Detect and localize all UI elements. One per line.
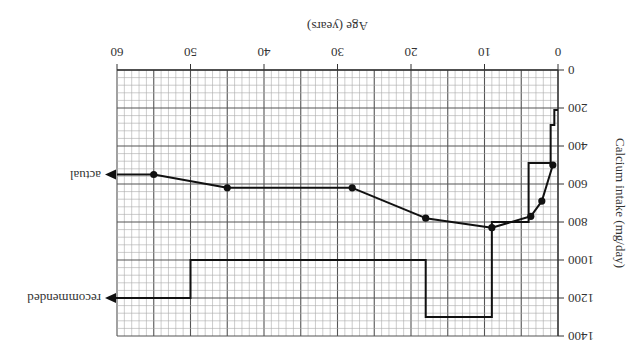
data-point-marker bbox=[538, 198, 545, 205]
recommended-line bbox=[105, 110, 558, 317]
data-point-marker bbox=[549, 161, 556, 168]
actual-line bbox=[105, 161, 556, 231]
x-tick-label: 20 bbox=[405, 45, 418, 60]
data-point-marker bbox=[150, 171, 157, 178]
legend-recommended: recommended bbox=[27, 291, 101, 306]
x-tick-label: 40 bbox=[258, 45, 271, 60]
y-tick-label: 400 bbox=[568, 139, 588, 154]
x-tick-label: 0 bbox=[555, 45, 562, 60]
y-tick-label: 800 bbox=[568, 215, 588, 230]
x-tick-label: 10 bbox=[478, 45, 491, 60]
chart-svg: 01020304050600200400600800100012001400 A… bbox=[0, 0, 644, 354]
x-axis-label: Age (years) bbox=[307, 19, 368, 34]
arrow-right-icon bbox=[105, 170, 116, 180]
y-tick-label: 1200 bbox=[568, 291, 594, 306]
x-tick-label: 30 bbox=[331, 45, 344, 60]
y-tick-label: 0 bbox=[568, 63, 575, 78]
data-point-marker bbox=[488, 224, 495, 231]
data-point-marker bbox=[422, 215, 429, 222]
y-axis-label: Calcium intake (mg/day) bbox=[613, 138, 628, 268]
legend-actual: actual bbox=[70, 168, 101, 183]
x-tick-label: 50 bbox=[184, 45, 197, 60]
data-point-marker bbox=[224, 184, 231, 191]
data-point-marker bbox=[349, 184, 356, 191]
y-tick-label: 600 bbox=[568, 177, 588, 192]
y-tick-label: 1000 bbox=[568, 253, 594, 268]
x-tick-label: 60 bbox=[111, 45, 124, 60]
calcium-chart: 01020304050600200400600800100012001400 A… bbox=[0, 0, 644, 354]
y-tick-label: 1400 bbox=[568, 329, 594, 344]
data-point-marker bbox=[527, 213, 534, 220]
y-tick-label: 200 bbox=[568, 101, 588, 116]
